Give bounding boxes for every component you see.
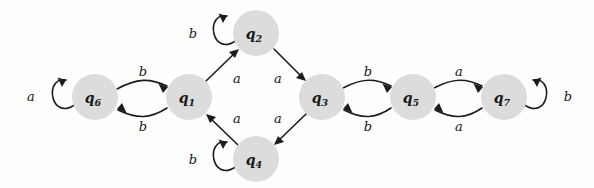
edge-q2-q3: a	[274, 49, 306, 86]
edge-label-q5-q3: b	[364, 119, 372, 134]
edge-label-q3-q4: a	[274, 111, 282, 126]
state-diagram: a b b a b a	[0, 0, 594, 188]
arrowhead-q4-self	[219, 140, 228, 150]
edge-label-q6-q1: b	[139, 64, 147, 79]
edge-q2-q2: b	[189, 14, 236, 45]
state-node-q2[interactable]: q2	[233, 10, 279, 56]
edge-q1-q2: a	[206, 49, 241, 86]
edge-q3-q4: a	[274, 111, 306, 146]
edge-label-q2-self: b	[189, 26, 197, 41]
edge-label-q7-q5: a	[455, 119, 463, 134]
edge-label-q4-q1: a	[233, 111, 241, 126]
edge-q6-q6: a	[27, 78, 74, 109]
edge-q4-q1: a	[206, 111, 241, 146]
edge-label-q4-self: b	[189, 152, 197, 167]
state-node-q5[interactable]: q5	[390, 74, 436, 120]
edge-q6-q1: b	[117, 64, 168, 94]
edge-q4-q4: b	[189, 140, 236, 171]
edge-label-q3-q5: b	[364, 64, 372, 79]
fsm-canvas: a b b a b a	[0, 0, 594, 188]
state-node-q1[interactable]: q1	[166, 74, 212, 120]
edge-label-q7-self: b	[564, 89, 572, 104]
edge-q3-q5: b	[343, 64, 392, 94]
edge-q5-q3: b	[343, 103, 391, 134]
edge-label-q1-q6: b	[139, 119, 147, 134]
state-node-q3[interactable]: q3	[299, 74, 345, 120]
state-node-q7[interactable]: q7	[481, 74, 527, 120]
edge-q5-q7: a	[434, 64, 483, 94]
edge-q7-q5: a	[434, 103, 482, 134]
edge-label-q2-q3: a	[274, 71, 282, 86]
edge-q7-q7: b	[525, 78, 573, 109]
state-node-q4[interactable]: q4	[233, 136, 279, 182]
arrowhead-q7-self	[533, 78, 542, 88]
edge-label-q1-q2: a	[233, 71, 241, 86]
arrowhead-q6-self	[58, 78, 67, 88]
edge-q1-q6: b	[117, 103, 167, 134]
state-node-q6[interactable]: q6	[72, 74, 118, 120]
edge-label-q6-self: a	[27, 89, 35, 104]
edge-label-q5-q7: a	[455, 64, 463, 79]
arrowhead-q2-self	[219, 14, 228, 24]
